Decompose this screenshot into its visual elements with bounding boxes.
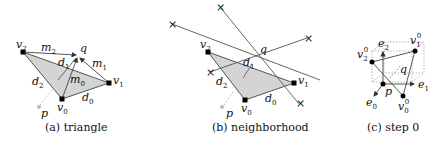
vertex-v1 (107, 81, 112, 86)
svg-text:v1: v1 (298, 74, 309, 89)
panel-neighborhood: × × × × × v2 q d1 v1 d2 p v0 d0 (b) neig… (168, 1, 320, 134)
svg-text:d1: d1 (58, 56, 70, 71)
svg-text:e1: e1 (418, 78, 429, 93)
svg-text:v00: v00 (398, 98, 409, 115)
svg-text:v2: v2 (16, 38, 27, 53)
svg-text:×: × (168, 18, 177, 31)
svg-text:×: × (206, 66, 215, 79)
caption-a: (a) triangle (45, 121, 108, 134)
svg-text:m2: m2 (41, 41, 56, 56)
vertex-v1 (413, 49, 418, 54)
svg-text:×: × (304, 32, 313, 45)
svg-text:v10: v10 (410, 32, 421, 49)
caption-c: (c) step 0 (367, 121, 419, 134)
panel-step0: e2 v10 v20 q e1 p e0 v00 (c) step 0 (357, 32, 429, 134)
svg-text:q: q (400, 63, 407, 76)
line-3 (210, 38, 307, 72)
figure: v2 m2 q d1 m1 v1 d2 m0 p v0 d0 (a) trian… (0, 0, 444, 144)
svg-text:v1: v1 (113, 74, 124, 89)
caption-b: (b) neighborhood (212, 121, 309, 134)
svg-text:q: q (80, 42, 87, 55)
vertex-v2 (370, 60, 375, 65)
svg-text:q: q (260, 43, 267, 56)
svg-text:e2: e2 (378, 37, 389, 52)
svg-text:e0: e0 (366, 96, 377, 111)
edge-v2-v1 (372, 51, 415, 62)
svg-text:d0: d0 (82, 91, 94, 106)
svg-text:×: × (216, 1, 225, 14)
svg-text:p: p (41, 107, 48, 120)
svg-text:d0: d0 (265, 92, 277, 107)
dotted-p (40, 90, 52, 105)
svg-text:d1: d1 (243, 56, 255, 71)
point-p (220, 105, 224, 109)
svg-text:m1: m1 (92, 57, 107, 72)
panel-triangle: v2 m2 q d1 m1 v1 d2 m0 p v0 d0 (a) trian… (16, 38, 124, 134)
svg-text:v0: v0 (57, 101, 68, 116)
svg-text:v0: v0 (241, 102, 252, 117)
svg-text:×: × (296, 97, 305, 110)
svg-text:v20: v20 (357, 46, 368, 63)
svg-text:d2: d2 (216, 75, 228, 90)
svg-text:d2: d2 (32, 75, 44, 90)
dotted-p (224, 92, 233, 105)
vertex-v1 (292, 81, 297, 86)
svg-text:p: p (226, 107, 233, 120)
svg-text:p: p (385, 85, 392, 98)
svg-text:v2: v2 (200, 38, 211, 53)
